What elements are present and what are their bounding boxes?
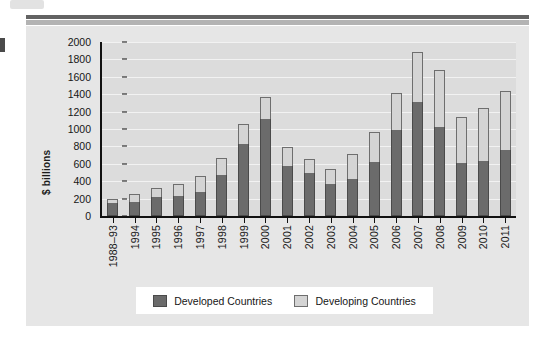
bar-stack bbox=[173, 184, 184, 216]
bar-segment-developing[interactable] bbox=[478, 108, 489, 161]
bar-stack bbox=[216, 158, 227, 216]
bar-segment-developed[interactable] bbox=[369, 162, 380, 216]
plot-wrapper: $ billions 20001800160014001200100080060… bbox=[26, 26, 529, 326]
bar-segment-developed[interactable] bbox=[304, 173, 315, 216]
bar-segment-developing[interactable] bbox=[325, 169, 336, 183]
bar-segment-developing[interactable] bbox=[412, 52, 423, 102]
bar-group[interactable] bbox=[238, 42, 249, 216]
bar-group[interactable] bbox=[107, 42, 118, 216]
bar-group[interactable] bbox=[195, 42, 206, 216]
bar-stack bbox=[325, 169, 336, 216]
bar-group[interactable] bbox=[173, 42, 184, 216]
scan-edge-mark bbox=[0, 38, 5, 52]
bar-group[interactable] bbox=[260, 42, 271, 216]
x-axis-tick-mark bbox=[374, 218, 375, 223]
scan-smudge bbox=[10, 0, 44, 9]
bar-segment-developed[interactable] bbox=[325, 184, 336, 216]
bar-group[interactable] bbox=[500, 42, 511, 216]
bar-segment-developing[interactable] bbox=[500, 91, 511, 150]
bar-segment-developing[interactable] bbox=[304, 159, 315, 173]
x-axis-tick-label: 2011 bbox=[499, 225, 511, 248]
x-axis-tick-label: 2002 bbox=[303, 225, 315, 249]
bar-segment-developed[interactable] bbox=[434, 127, 445, 216]
x-axis-tick-mark bbox=[440, 218, 441, 223]
bar-segment-developed[interactable] bbox=[478, 161, 489, 216]
y-axis-tick-label: 1400 bbox=[68, 88, 91, 100]
x-axis-tick-mark bbox=[353, 218, 354, 223]
x-axis-tick-label: 1998 bbox=[216, 225, 228, 249]
bar-group[interactable] bbox=[325, 42, 336, 216]
chart-figure: $ billions 20001800160014001200100080060… bbox=[26, 26, 529, 326]
x-axis-tick-mark bbox=[200, 218, 201, 223]
bar-stack bbox=[412, 52, 423, 216]
legend-item-developed[interactable]: Developed Countries bbox=[153, 295, 272, 307]
bar-segment-developed[interactable] bbox=[195, 192, 206, 216]
legend-label-developed: Developed Countries bbox=[174, 295, 272, 307]
bar-segment-developing[interactable] bbox=[434, 70, 445, 127]
chart-legend: Developed Countries Developing Countries bbox=[136, 287, 433, 314]
x-axis-tick-mark bbox=[135, 218, 136, 223]
bar-segment-developing[interactable] bbox=[369, 132, 380, 161]
bar-segment-developed[interactable] bbox=[107, 203, 118, 216]
bar-segment-developed[interactable] bbox=[173, 196, 184, 216]
bar-segment-developing[interactable] bbox=[151, 188, 162, 197]
bar-segment-developed[interactable] bbox=[216, 175, 227, 216]
bar-group[interactable] bbox=[456, 42, 467, 216]
x-axis-tick-mark bbox=[418, 218, 419, 223]
bar-stack bbox=[369, 132, 380, 216]
bar-group[interactable] bbox=[347, 42, 358, 216]
bar-stack bbox=[151, 188, 162, 216]
bar-stack bbox=[195, 176, 206, 216]
bar-segment-developing[interactable] bbox=[456, 117, 467, 163]
bar-stack bbox=[391, 93, 402, 216]
legend-item-developing[interactable]: Developing Countries bbox=[294, 295, 415, 307]
x-axis-line bbox=[100, 216, 516, 218]
bar-segment-developing[interactable] bbox=[195, 176, 206, 192]
x-axis-tick-label: 2006 bbox=[390, 225, 402, 249]
bar-segment-developed[interactable] bbox=[412, 102, 423, 216]
bar-group[interactable] bbox=[412, 42, 423, 216]
x-axis-tick-mark bbox=[396, 218, 397, 223]
bar-group[interactable] bbox=[304, 42, 315, 216]
bar-segment-developed[interactable] bbox=[391, 130, 402, 216]
bar-group[interactable] bbox=[434, 42, 445, 216]
y-axis-tick-label: 0 bbox=[85, 210, 91, 222]
x-axis-tick-label: 2001 bbox=[281, 225, 293, 249]
x-axis-tick-label: 1988–93 bbox=[107, 225, 119, 267]
bar-segment-developed[interactable] bbox=[151, 197, 162, 216]
bar-segment-developing[interactable] bbox=[129, 194, 140, 202]
x-axis-tick-mark bbox=[244, 218, 245, 223]
bar-group[interactable] bbox=[478, 42, 489, 216]
y-axis-tick-label: 800 bbox=[73, 140, 91, 152]
bar-segment-developing[interactable] bbox=[216, 158, 227, 175]
bar-group[interactable] bbox=[216, 42, 227, 216]
bar-group[interactable] bbox=[129, 42, 140, 216]
bar-stack bbox=[282, 147, 293, 216]
bar-segment-developing[interactable] bbox=[347, 154, 358, 178]
bar-group[interactable] bbox=[391, 42, 402, 216]
x-axis-tick-mark bbox=[331, 218, 332, 223]
x-axis-tick-mark bbox=[113, 218, 114, 223]
y-axis-tick-label: 1000 bbox=[68, 123, 91, 135]
bar-segment-developed[interactable] bbox=[500, 150, 511, 216]
bar-group[interactable] bbox=[369, 42, 380, 216]
x-axis-tick-mark bbox=[222, 218, 223, 223]
bar-segment-developed[interactable] bbox=[129, 202, 140, 216]
x-axis-tick-label: 1994 bbox=[129, 225, 141, 249]
bar-group[interactable] bbox=[282, 42, 293, 216]
x-axis-tick-label: 2004 bbox=[347, 225, 359, 249]
bar-segment-developed[interactable] bbox=[456, 163, 467, 217]
bar-group[interactable] bbox=[151, 42, 162, 216]
y-axis-tick-label: 1200 bbox=[68, 106, 91, 118]
bar-segment-developed[interactable] bbox=[347, 179, 358, 216]
bar-segment-developing[interactable] bbox=[391, 93, 402, 130]
bar-segment-developed[interactable] bbox=[282, 166, 293, 216]
bar-segment-developed[interactable] bbox=[260, 119, 271, 216]
bar-segment-developing[interactable] bbox=[238, 124, 249, 144]
bar-stack bbox=[260, 97, 271, 216]
bar-segment-developed[interactable] bbox=[238, 144, 249, 216]
bar-segment-developing[interactable] bbox=[260, 97, 271, 120]
bar-segment-developing[interactable] bbox=[173, 184, 184, 196]
bar-stack bbox=[347, 154, 358, 216]
bar-segment-developing[interactable] bbox=[282, 147, 293, 165]
